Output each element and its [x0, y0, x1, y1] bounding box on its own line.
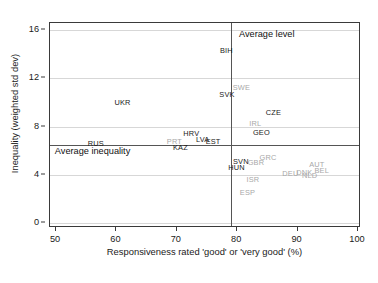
annotation-average-level: Average level [239, 29, 295, 39]
y-tick-label-16: 16 [29, 24, 39, 34]
annotation-average-inequality: Average inequality [55, 146, 130, 156]
plot-area: BIHSWESVKUKRCZEIRLGEOHRVLVAESTPRTRUSKAZG… [49, 22, 360, 227]
data-point-deu: DEU [282, 170, 298, 178]
data-point-est: EST [206, 138, 221, 146]
data-point-cze: CZE [266, 109, 281, 117]
x-tick-mark-90 [297, 227, 298, 231]
data-point-kaz: KAZ [173, 144, 188, 152]
x-axis-title: Responsiveness rated 'good' or 'very goo… [49, 246, 360, 257]
x-axis-tick-labels: 5060708090100 [49, 227, 360, 245]
data-point-swe: SWE [233, 84, 250, 92]
y-tick-mark-0 [41, 222, 45, 223]
gridline-y-8 [50, 127, 359, 128]
x-tick-mark-60 [115, 227, 116, 231]
y-tick-mark-12 [41, 77, 45, 78]
y-axis-tick-labels: 0481216 [0, 22, 45, 227]
x-tick-mark-100 [357, 227, 358, 231]
data-point-svk: SVK [219, 91, 234, 99]
y-tick-mark-8 [41, 125, 45, 126]
gridline-y-16 [50, 30, 359, 31]
x-tick-mark-50 [55, 227, 56, 231]
x-tick-label-90: 90 [291, 234, 301, 244]
gridline-y-12 [50, 78, 359, 79]
x-tick-mark-70 [176, 227, 177, 231]
data-point-isr: ISR [247, 176, 260, 184]
data-point-geo: GEO [253, 129, 270, 137]
x-tick-label-100: 100 [349, 234, 364, 244]
y-tick-mark-4 [41, 173, 45, 174]
gridline-y-0 [50, 223, 359, 224]
y-tick-label-8: 8 [34, 121, 39, 131]
y-tick-label-4: 4 [34, 169, 39, 179]
x-tick-label-80: 80 [231, 234, 241, 244]
x-tick-label-70: 70 [171, 234, 181, 244]
x-tick-label-60: 60 [110, 234, 120, 244]
data-point-bih: BIH [220, 47, 233, 55]
x-tick-label-50: 50 [50, 234, 60, 244]
data-point-gbr: GBR [248, 159, 264, 167]
data-point-esp: ESP [240, 189, 255, 197]
y-tick-label-12: 12 [29, 72, 39, 82]
data-point-ukr: UKR [114, 99, 130, 107]
data-point-hun: HUN [228, 164, 244, 172]
scatter-plot-figure: Inequality (weighted std dev) 0481216 BI… [0, 0, 378, 283]
y-tick-mark-16 [41, 29, 45, 30]
data-point-nld: NLD [302, 172, 317, 180]
x-tick-mark-80 [236, 227, 237, 231]
y-tick-label-0: 0 [34, 217, 39, 227]
